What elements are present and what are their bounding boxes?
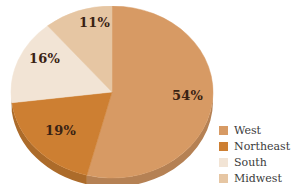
legend-swatch-midwest bbox=[219, 174, 228, 183]
legend-item-midwest[interactable]: Midwest bbox=[219, 172, 290, 185]
legend-item-south[interactable]: South bbox=[219, 156, 290, 169]
slice-label-south: 16% bbox=[29, 51, 60, 66]
slice-label-west: 54% bbox=[172, 88, 203, 103]
legend-item-west[interactable]: West bbox=[219, 124, 290, 137]
legend-swatch-west bbox=[219, 126, 228, 135]
slice-label-northeast: 19% bbox=[45, 123, 76, 138]
legend-swatch-south bbox=[219, 158, 228, 167]
pie-chart: 54% 19% 16% 11% West Northeast South Mid… bbox=[0, 0, 296, 195]
chart-legend: West Northeast South Midwest bbox=[219, 124, 290, 185]
legend-label-south: South bbox=[234, 156, 267, 169]
legend-label-west: West bbox=[234, 124, 261, 137]
slice-label-midwest: 11% bbox=[79, 15, 110, 30]
legend-item-northeast[interactable]: Northeast bbox=[219, 140, 290, 153]
legend-label-northeast: Northeast bbox=[234, 140, 290, 153]
legend-label-midwest: Midwest bbox=[234, 172, 282, 185]
legend-swatch-northeast bbox=[219, 142, 228, 151]
